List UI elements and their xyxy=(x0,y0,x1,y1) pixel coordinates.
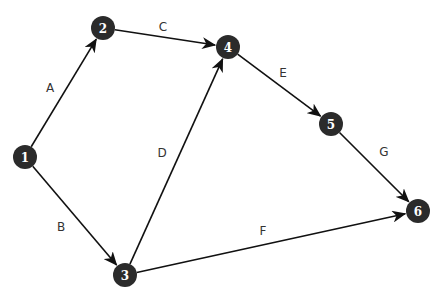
edge-f-arrow xyxy=(137,214,406,273)
node-4: 4 xyxy=(216,35,240,59)
edge-g-arrow xyxy=(339,132,408,201)
node-label: 3 xyxy=(121,269,129,283)
edge-label-d: D xyxy=(157,146,166,160)
edge-b-arrow xyxy=(33,166,117,265)
network-diagram: ABCDEFG 123456 xyxy=(0,0,444,304)
node-6: 6 xyxy=(406,199,430,223)
node-label: 4 xyxy=(224,41,232,55)
nodes-layer: 123456 xyxy=(13,16,430,287)
edge-e-arrow xyxy=(238,54,321,116)
node-3: 3 xyxy=(113,263,137,287)
node-5: 5 xyxy=(319,112,343,136)
node-label: 2 xyxy=(99,22,107,36)
node-label: 6 xyxy=(414,205,422,219)
edges-layer xyxy=(31,30,409,273)
node-label: 1 xyxy=(21,151,29,165)
edge-label-g: G xyxy=(379,145,388,159)
edge-label-a: A xyxy=(46,81,55,95)
edge-a-arrow xyxy=(31,39,96,147)
edge-label-e: E xyxy=(279,66,287,80)
edge-d-arrow xyxy=(130,59,223,264)
node-2: 2 xyxy=(91,16,115,40)
node-1: 1 xyxy=(13,145,37,169)
edge-label-f: F xyxy=(260,224,267,238)
edge-label-b: B xyxy=(57,220,65,234)
edge-label-c: C xyxy=(159,20,167,34)
node-label: 5 xyxy=(327,118,335,132)
